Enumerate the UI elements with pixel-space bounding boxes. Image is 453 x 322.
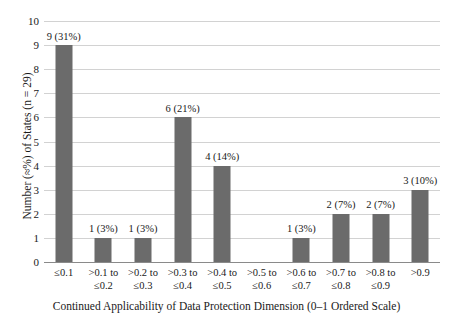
x-tick-label: >0.5 to≤0.6: [242, 266, 282, 292]
bar-value-label: 9 (31%): [47, 32, 81, 43]
bar-value-label: 1 (3%): [89, 224, 118, 235]
x-tick-label: >0.6 to≤0.7: [282, 266, 322, 292]
bar-slot: 6 (21%): [163, 21, 203, 262]
bar-value-label: 1 (3%): [129, 224, 158, 235]
x-tick-label-line: ≤0.2: [84, 279, 124, 292]
plot-area: 012345678910 9 (31%)1 (3%)1 (3%)6 (21%)4…: [44, 21, 440, 262]
bar-value-label: 6 (21%): [166, 104, 200, 115]
x-tick-label-line: >0.2 to: [123, 266, 163, 279]
y-tick-label: 5: [34, 136, 40, 147]
x-axis-title: Continued Applicability of Data Protecti…: [0, 300, 453, 312]
x-tick-label-line: >0.4 to: [202, 266, 242, 279]
bar-value-label: 1 (3%): [287, 224, 316, 235]
bar: [372, 214, 389, 262]
axis-baseline: [44, 262, 440, 263]
y-tick-label: 2: [34, 208, 40, 219]
y-tick-label: 0: [34, 257, 40, 268]
x-tick-label: >0.3 to≤0.4: [163, 266, 203, 292]
y-tick-label: 3: [34, 184, 40, 195]
y-tick-label: 10: [28, 16, 39, 27]
x-tick-label-line: >0.7 to: [321, 266, 361, 279]
x-tick-label-line: >0.5 to: [242, 266, 282, 279]
x-tick-label-line: ≤0.3: [123, 279, 163, 292]
x-tick-label-line: ≤0.4: [163, 279, 203, 292]
bar-slot: 1 (3%): [282, 21, 322, 262]
x-tick-label: >0.8 to≤0.9: [361, 266, 401, 292]
bar-slot: 2 (7%): [361, 21, 401, 262]
x-tick-label: >0.2 to≤0.3: [123, 266, 163, 292]
y-axis-title: Number (≈%) of States (n = 29): [21, 41, 33, 251]
x-tick-label-line: ≤0.9: [361, 279, 401, 292]
bar: [412, 190, 429, 262]
bar: [332, 214, 349, 262]
bar: [95, 238, 112, 262]
x-tick-label-line: ≤0.8: [321, 279, 361, 292]
x-tick-label: >0.4 to≤0.5: [202, 266, 242, 292]
y-tick-label: 7: [34, 88, 40, 99]
x-tick-label-line: >0.1 to: [84, 266, 124, 279]
y-tick-label: 6: [34, 112, 40, 123]
x-tick-label-line: >0.6 to: [282, 266, 322, 279]
x-tick-label-line: ≤0.6: [242, 279, 282, 292]
bars-layer: 9 (31%)1 (3%)1 (3%)6 (21%)4 (14%)1 (3%)2…: [44, 21, 440, 262]
x-tick-label: >0.7 to≤0.8: [321, 266, 361, 292]
bar-value-label: 2 (7%): [366, 200, 395, 211]
x-axis-tick-labels: ≤0.1>0.1 to≤0.2>0.2 to≤0.3>0.3 to≤0.4>0.…: [44, 266, 440, 298]
bar-value-label: 3 (10%): [403, 176, 437, 187]
bar-slot: 1 (3%): [123, 21, 163, 262]
bar: [214, 166, 231, 262]
bar-slot: 2 (7%): [321, 21, 361, 262]
bar: [174, 117, 191, 262]
x-tick-label-line: ≤0.1: [44, 266, 84, 279]
bar: [293, 238, 310, 262]
x-tick-label-line: >0.3 to: [163, 266, 203, 279]
x-tick-label: >0.9: [400, 266, 440, 279]
bar: [55, 45, 72, 262]
y-tick-label: 8: [34, 64, 40, 75]
bar-slot: 1 (3%): [84, 21, 124, 262]
bar-slot: 4 (14%): [202, 21, 242, 262]
x-tick-label-line: ≤0.5: [202, 279, 242, 292]
bar-slot: 3 (10%): [400, 21, 440, 262]
bar-value-label: 2 (7%): [327, 200, 356, 211]
bar-slot: [242, 21, 282, 262]
y-tick-label: 9: [34, 40, 40, 51]
x-tick-label-line: >0.9: [400, 266, 440, 279]
bar: [134, 238, 151, 262]
x-tick-label-line: ≤0.7: [282, 279, 322, 292]
x-tick-label: ≤0.1: [44, 266, 84, 279]
y-tick-label: 4: [34, 160, 40, 171]
x-tick-label-line: >0.8 to: [361, 266, 401, 279]
bar-chart: Number (≈%) of States (n = 29) 012345678…: [0, 0, 453, 322]
y-tick-label: 1: [34, 232, 40, 243]
bar-value-label: 4 (14%): [205, 152, 239, 163]
x-tick-label: >0.1 to≤0.2: [84, 266, 124, 292]
bar-slot: 9 (31%): [44, 21, 84, 262]
